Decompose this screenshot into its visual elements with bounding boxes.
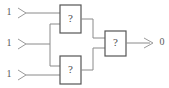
input-arrow-icon	[18, 8, 26, 18]
gate-bottom-label: ?	[68, 63, 73, 75]
wire-gate-top-to-gate-output	[81, 19, 105, 38]
input-terminal-3	[18, 70, 60, 80]
gate-top-label: ?	[68, 12, 73, 24]
input-label-2: 1	[7, 37, 12, 48]
circuit-diagram-canvas: ? ? ? 1 1 1 0	[0, 0, 169, 88]
input-arrow-icon	[18, 39, 26, 49]
input-arrow-icon	[18, 70, 26, 80]
input-terminal-1	[18, 8, 60, 18]
circuit-diagram-svg: ? ? ? 1 1 1 0	[0, 0, 169, 88]
input-label-3: 1	[7, 68, 12, 79]
gate-output-label: ?	[113, 36, 118, 48]
input-label-1: 1	[7, 6, 12, 17]
output-terminal-1	[126, 38, 153, 48]
input-terminal-2	[18, 39, 50, 49]
output-label-1: 0	[160, 36, 165, 47]
wire-gate-bottom-to-gate-output	[81, 48, 105, 70]
